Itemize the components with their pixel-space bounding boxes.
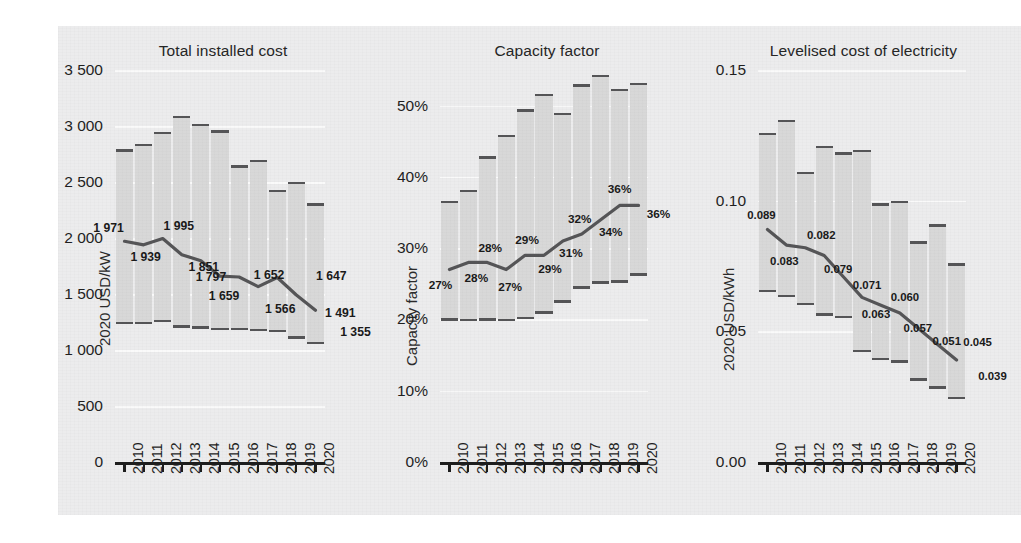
data-point-label: 0.071 [853,279,882,291]
y-axis-tick-label: 30% [348,239,428,257]
x-axis-tick [543,465,545,472]
x-axis-tick [955,465,957,472]
x-axis-tick [123,465,125,472]
y-axis-tick-label: 0 [23,453,103,471]
x-axis-tick [219,465,221,472]
y-axis-tick-label: 500 [23,397,103,415]
x-axis-tick [785,465,787,472]
x-axis-tick [766,465,768,472]
panel-title: Levelised cost of electricity [706,42,1021,60]
data-point-label: 27% [429,278,453,292]
y-axis-tick-label: 3 000 [23,117,103,135]
x-axis-tick [842,465,844,472]
data-point-label: 1 647 [316,269,347,283]
x-axis-tick [276,465,278,472]
x-axis-tick [823,465,825,472]
y-axis-tick-label: 10% [348,382,428,400]
data-point-label: 36% [608,182,632,196]
panel-y-axis-label: 2020 USD/kWh [720,268,737,371]
data-point-label: 0.057 [904,322,933,334]
panel-title: Capacity factor [388,42,706,60]
x-axis-label-2020: 2020 [962,443,978,474]
data-point-label: 28% [465,271,489,285]
data-point-label: 1 995 [163,219,194,233]
data-point-label: 32% [568,212,592,226]
data-point-label: 0.045 [963,336,992,348]
data-point-label: 0.079 [824,263,853,275]
data-point-label: 0.060 [891,291,920,303]
y-axis-tick-label: 2 000 [23,229,103,247]
weighted-average-line [115,70,325,462]
panel-title: Total installed cost [58,42,388,60]
x-axis-tick [505,465,507,472]
y-axis-tick-label: 2 500 [23,173,103,191]
data-point-label: 0.083 [770,255,799,267]
y-axis-tick-label: 0.05 [666,322,746,340]
data-point-label: 1 659 [209,289,240,303]
data-point-label: 1 797 [196,270,227,284]
plot-area: 0%10%20%30%40%50%27%28%28%27%29%29%31%32… [440,70,648,462]
x-axis-tick [314,465,316,472]
x-axis-tick [637,465,639,472]
x-axis-tick [143,465,145,472]
y-axis-tick-label: 20% [348,310,428,328]
x-axis-tick [162,465,164,472]
x-axis-tick [295,465,297,472]
panel-levelised-cost-of-electricity: Levelised cost of electricity 2020 USD/k… [706,26,1021,515]
x-axis-tick [918,465,920,472]
x-axis-tick [880,465,882,472]
x-axis-tick [467,465,469,472]
x-axis-tick [619,465,621,472]
data-point-label: 28% [478,241,502,255]
x-axis-tick [937,465,939,472]
data-point-label: 1 566 [265,302,296,316]
y-axis-tick-label: 0.00 [666,453,746,471]
y-axis-tick-label: 1 500 [23,285,103,303]
data-point-label: 0.082 [807,229,836,241]
x-axis-tick [257,465,259,472]
figure-page: Total installed cost 2020 USD/kW 05001 0… [0,0,1021,543]
data-point-label: 29% [515,233,539,247]
x-axis-tick [581,465,583,472]
x-axis-label-2020: 2020 [644,443,660,474]
x-axis-tick [861,465,863,472]
data-point-label: 1 939 [130,250,161,264]
data-point-label: 29% [538,262,562,276]
y-axis-tick-label: 50% [348,97,428,115]
data-point-label: 31% [559,246,583,260]
data-point-label: 1 971 [93,221,124,235]
x-axis-tick [238,465,240,472]
x-axis-tick [524,465,526,472]
y-axis-tick-label: 1 000 [23,341,103,359]
y-axis-tick-label: 0.10 [666,192,746,210]
x-axis-tick [600,465,602,472]
x-axis-tick [448,465,450,472]
plot-area: 0.000.050.100.150.0890.0830.0820.0790.07… [758,70,966,462]
data-point-label: 34% [599,225,623,239]
data-point-label: 0.089 [747,209,776,221]
scanned-figure-area: Total installed cost 2020 USD/kW 05001 0… [58,26,1021,515]
y-axis-tick-label: 0% [348,453,428,471]
x-axis-tick [899,465,901,472]
x-axis-tick [804,465,806,472]
data-point-label: 0.051 [932,335,961,347]
plot-area: 05001 0001 5002 0002 5003 0003 5001 9711… [115,70,325,462]
data-point-label: 1 652 [254,268,285,282]
x-axis-tick [562,465,564,472]
panel-total-installed-cost: Total installed cost 2020 USD/kW 05001 0… [58,26,388,515]
data-point-label: 27% [498,280,522,294]
panel-capacity-factor: Capacity factor Capacity factor 0%10%20%… [388,26,706,515]
y-axis-tick-label: 3 500 [23,61,103,79]
x-axis-tick [200,465,202,472]
y-axis-tick-label: 0.15 [666,61,746,79]
data-point-label: 0.063 [862,308,891,320]
x-axis-tick [181,465,183,472]
x-axis-tick [486,465,488,472]
data-point-label: 0.039 [978,370,1007,382]
x-axis-label-2020: 2020 [321,443,337,474]
y-axis-tick-label: 40% [348,168,428,186]
